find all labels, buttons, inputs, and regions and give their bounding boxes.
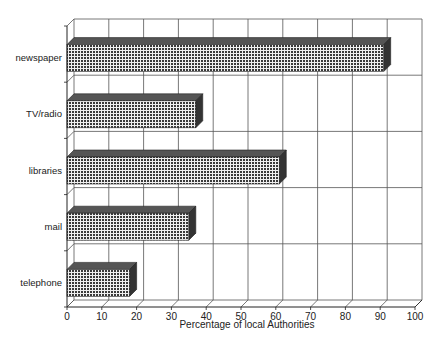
x-tick-label: 100 [407,311,424,322]
wall-line [67,300,74,307]
bar-telephone [67,262,137,296]
wall-line [67,75,74,82]
axis-corner [415,300,422,307]
x-axis-title: Percentage of local Authorities [179,319,314,330]
floor-line [276,300,283,307]
floor-line [345,300,352,307]
bar-top-face [67,150,286,157]
category-label: telephone [20,277,62,288]
bar-tvradio [67,94,203,128]
category-label: mail [45,221,62,232]
wall-line [67,244,74,251]
bar-top-face [67,262,137,269]
bar-top-face [67,38,391,45]
bar-libraries [67,150,286,184]
bar-front-face [67,101,196,128]
x-tick-label: 20 [131,311,143,322]
bar-front-face [67,157,279,184]
chart-canvas: newspaperTV/radiolibrariesmailtelephone … [0,0,437,349]
x-tick-label: 80 [340,311,352,322]
floor-line [241,300,248,307]
floor-line [311,300,318,307]
bar-front-face [67,269,130,296]
wall-line [67,188,74,195]
bars [67,38,391,297]
bar-front-face [67,45,384,72]
category-labels: newspaperTV/radiolibrariesmailtelephone [16,52,63,288]
x-tick-label: 30 [166,311,178,322]
floor-line [380,300,387,307]
x-tick-label: 10 [96,311,108,322]
bar-top-face [67,94,203,101]
bar-mail [67,206,196,240]
category-label: libraries [29,165,63,176]
wall-line [67,19,74,26]
x-tick-label: 90 [375,311,387,322]
floor-line [206,300,213,307]
floor-line [171,300,178,307]
bar-top-face [67,206,196,213]
bar-front-face [67,213,189,240]
bar-newspaper [67,38,391,72]
category-label: TV/radio [26,108,62,119]
floor-line [102,300,109,307]
bar-chart: newspaperTV/radiolibrariesmailtelephone … [0,0,437,349]
x-tick-label: 0 [64,311,70,322]
wall-line [67,131,74,138]
category-label: newspaper [16,52,62,63]
floor-line [137,300,144,307]
